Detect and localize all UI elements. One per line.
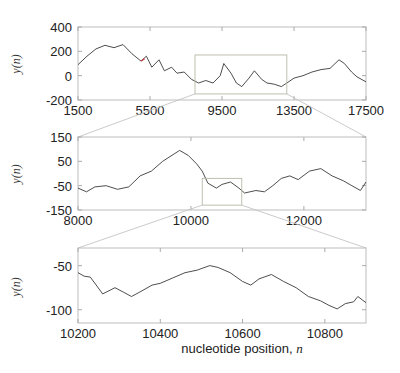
panel-top: 15005500950013500175004002000-200 y(n) — [9, 20, 384, 118]
panel-top-ylabel: y(n) — [9, 54, 23, 74]
panel-bottom-xlabel: nucleotide position, n — [181, 341, 302, 356]
panel-bottom-series-line — [78, 266, 366, 309]
y-tick-label: -50 — [53, 179, 72, 194]
panel-bottom: 10200104001060010800-50-100 y(n) nucleot… — [9, 248, 366, 356]
y-tick-label: 200 — [50, 44, 72, 59]
y-tick-label: -150 — [46, 203, 72, 218]
y-tick-label: 0 — [65, 69, 72, 84]
x-tick-label: 13500 — [276, 103, 312, 118]
panel-top-frame — [78, 27, 366, 100]
panel-top-tick-labels: 15005500950013500175004002000-200 — [46, 20, 384, 118]
y-tick-label: 50 — [58, 154, 72, 169]
x-tick-label: 10200 — [60, 326, 96, 341]
panel-middle-ylabel: y(n) — [9, 164, 23, 184]
x-tick-label: 9500 — [208, 103, 237, 118]
xlabel-text: nucleotide position, — [181, 341, 296, 356]
figure: 15005500950013500175004002000-200 y(n) 8… — [0, 0, 400, 373]
panel-middle-ticks — [78, 137, 366, 210]
x-tick-label: 10800 — [307, 326, 343, 341]
x-tick-label: 12000 — [286, 213, 322, 228]
panel-top-ticks — [78, 27, 366, 100]
x-tick-label: 17500 — [348, 103, 384, 118]
panel-middle-frame — [78, 137, 366, 210]
panel-bottom-ticks — [78, 248, 366, 323]
panel-middle-series-line — [78, 150, 366, 193]
x-tick-label: 10000 — [173, 213, 209, 228]
y-tick-label: -100 — [46, 303, 72, 318]
panel-bottom-frame — [78, 248, 366, 323]
panel-top-series-line — [78, 45, 366, 87]
x-tick-label: 10600 — [224, 326, 260, 341]
y-tick-label: -200 — [46, 93, 72, 108]
x-tick-label: 10400 — [142, 326, 178, 341]
panel-top-zoom-box — [195, 55, 287, 94]
y-tick-label: 150 — [50, 130, 72, 145]
panel-middle-zoom-box — [202, 178, 242, 205]
y-tick-label: 400 — [50, 20, 72, 35]
zoom-connector-right-2 — [242, 205, 366, 248]
panel-bottom-ylabel: y(n) — [9, 277, 23, 297]
xlabel-variable: n — [296, 341, 303, 356]
y-tick-label: -50 — [53, 259, 72, 274]
panel-middle: 8000100001200015050-50-150 y(n) — [9, 130, 366, 228]
